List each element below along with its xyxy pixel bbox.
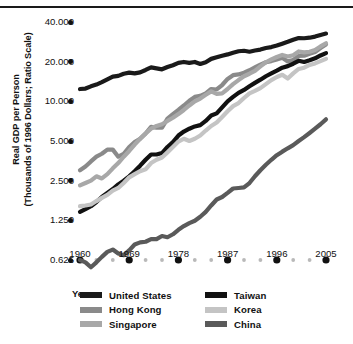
chart-figure: Real GDP per Person (Thousands of 1996 D… <box>0 0 353 344</box>
legend-item[interactable]: Taiwan <box>205 288 266 303</box>
legend-label: Singapore <box>109 319 157 330</box>
x-tick-label: 1978 <box>158 248 198 259</box>
x-tick-label: 1969 <box>109 248 149 259</box>
legend-label: Taiwan <box>234 290 266 301</box>
x-tick-label: 2005 <box>306 248 346 259</box>
x-tick-label: 1987 <box>208 248 248 259</box>
legend-label: Hong Kong <box>109 304 162 315</box>
x-tick-label: 1960 <box>60 248 100 259</box>
legend-item[interactable]: China <box>205 317 266 332</box>
y-axis-ticks: 0.6251.2502.5005.00010.00020.00040.000 <box>18 12 74 274</box>
legend-column-left: United StatesHong KongSingapore <box>80 288 172 332</box>
legend-label: China <box>234 319 261 330</box>
legend-item[interactable]: Hong Kong <box>80 303 172 318</box>
legend-column-right: TaiwanKoreaChina <box>205 288 266 332</box>
chart-legend: United StatesHong KongSingapore TaiwanKo… <box>0 288 353 338</box>
legend-swatch-icon <box>205 321 227 327</box>
legend-item[interactable]: United States <box>80 288 172 303</box>
chart-lines-svg <box>72 12 334 274</box>
legend-item[interactable]: Korea <box>205 303 266 318</box>
x-tick-label: 1996 <box>257 248 297 259</box>
legend-swatch-icon <box>80 292 102 298</box>
legend-swatch-icon <box>80 321 102 327</box>
legend-label: United States <box>109 290 172 301</box>
legend-label: Korea <box>234 304 262 315</box>
plot-area: Real GDP per Person (Thousands of 1996 D… <box>0 12 353 274</box>
legend-swatch-icon <box>205 307 227 313</box>
x-axis-ticks: Year 196019691978198719962005 <box>0 248 353 288</box>
legend-swatch-icon <box>80 307 102 313</box>
legend-swatch-icon <box>205 292 227 298</box>
legend-item[interactable]: Singapore <box>80 317 172 332</box>
series-line-china <box>80 119 326 267</box>
